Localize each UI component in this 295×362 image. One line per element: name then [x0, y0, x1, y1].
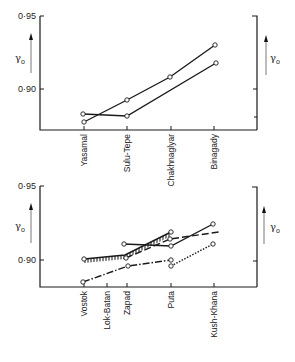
top-ytick-label-090: 0·90: [18, 84, 36, 94]
data-point: [168, 237, 172, 241]
top-chart: 0·95 0·90 γ o γ o Yasamal Sulu-Tepe Chak…: [15, 11, 280, 186]
top-chart-right-axis: [252, 16, 257, 130]
gamma-subscript: o: [276, 227, 280, 234]
bottom-xlabel-3: Puta: [166, 291, 176, 309]
bottom-ylabel-right: γ o: [262, 206, 280, 244]
data-point: [169, 230, 173, 234]
data-point: [211, 242, 215, 246]
data-point: [214, 61, 218, 65]
arrow-head-icon: [262, 206, 266, 213]
top-series-2-line: [83, 63, 216, 116]
bottom-chart-left-x-axis: [40, 186, 257, 287]
data-point: [81, 280, 85, 284]
figure: 0·95 0·90 γ o γ o Yasamal Sulu-Tepe Chak…: [0, 0, 295, 362]
data-point: [169, 258, 173, 262]
arrow-head-icon: [264, 35, 268, 42]
bottom-xlabel-4: Kush-Khana: [209, 291, 219, 338]
data-point: [82, 120, 86, 124]
data-point: [168, 75, 172, 79]
bottom-ytick-label-090: 0·90: [18, 255, 36, 265]
bottom-xlabel-1: Lok-Batan: [102, 291, 112, 330]
top-series-1-line: [84, 45, 215, 122]
gamma-subscript: o: [276, 58, 280, 65]
top-xlabel-0: Yasamal: [79, 134, 89, 167]
top-ylabel-left: γ o: [15, 33, 33, 73]
top-ylabel-right: γ o: [264, 35, 280, 75]
data-point: [211, 222, 215, 226]
data-point: [125, 114, 129, 118]
bottom-ylabel-left: γ o: [15, 203, 33, 243]
top-xlabel-1: Sulu-Tepe: [122, 134, 132, 173]
bottom-ytick-label-095: 0·95: [18, 181, 36, 191]
data-point: [213, 43, 217, 47]
data-point: [169, 244, 173, 248]
data-point: [81, 112, 85, 116]
bottom-series-dotted: [171, 244, 213, 266]
bottom-xlabel-0: Vostok: [79, 290, 89, 316]
data-point: [82, 257, 86, 261]
data-point: [122, 242, 126, 246]
data-point: [169, 264, 173, 268]
bottom-xlabel-2: Zapad: [122, 291, 132, 315]
bottom-chart: 0·95 0·90 γ o γ o Vostok Lok-Batan Zapad…: [15, 181, 280, 338]
arrow-head-icon: [29, 203, 33, 210]
top-chart-left-x-axis: [40, 16, 257, 130]
bottom-chart-right-axis: [252, 187, 257, 287]
bottom-series-dash-dot: [83, 260, 171, 282]
top-xlabel-2: Chakhnaglyar: [166, 134, 176, 187]
top-xlabel-3: Binagady: [209, 133, 219, 169]
top-ytick-label-095: 0·95: [18, 11, 36, 21]
data-point: [124, 256, 128, 260]
data-point: [126, 264, 130, 268]
arrow-head-icon: [29, 33, 33, 40]
gamma-subscript: o: [21, 58, 25, 65]
data-point: [125, 98, 129, 102]
gamma-subscript: o: [21, 226, 25, 233]
